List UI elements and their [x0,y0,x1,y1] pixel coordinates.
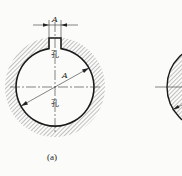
diagram-canvas: A A 孔 孔 [0,0,182,176]
diameter-label: A [61,71,68,80]
figure-a-caption: (a) [47,152,57,162]
hole-label-top: 孔 [51,50,59,59]
hole-label-bottom: 孔 [51,99,59,108]
figure-b [155,44,182,130]
keyway-width-label: A [51,15,58,24]
figure-a: A A 孔 孔 [5,15,105,137]
